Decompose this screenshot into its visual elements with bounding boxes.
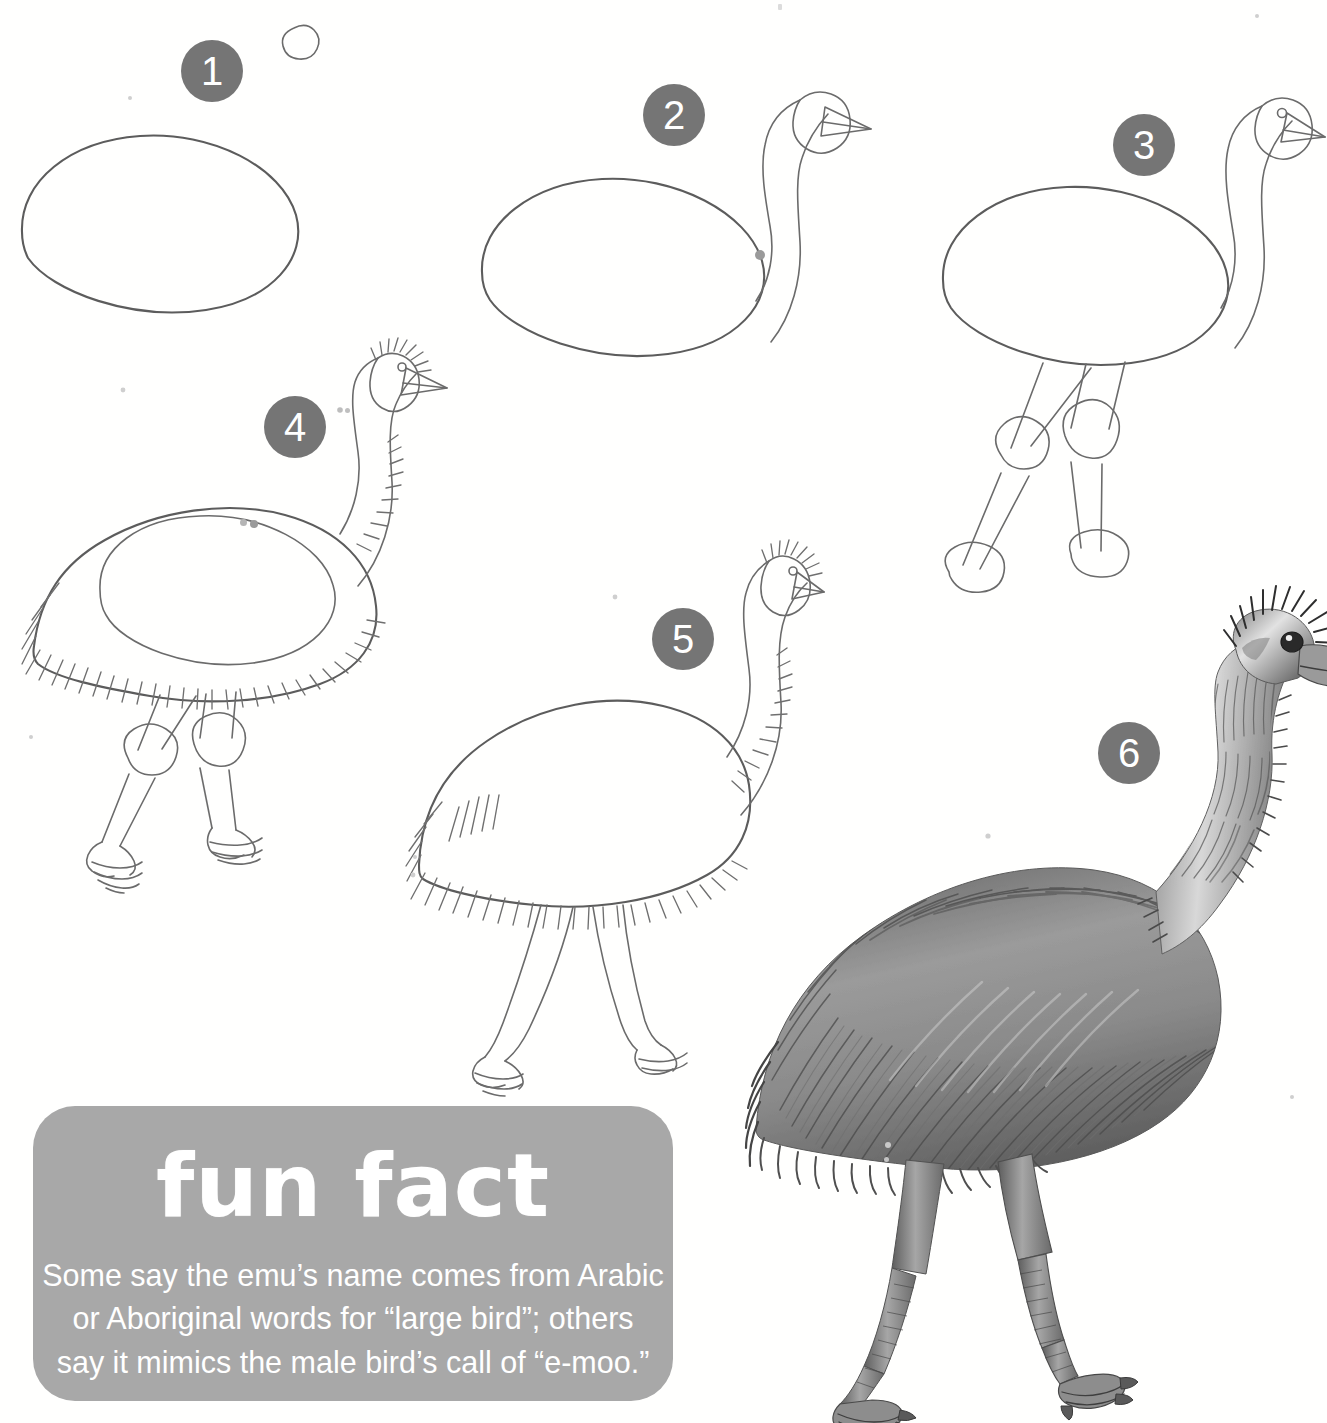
head-outline (370, 353, 419, 411)
front-foot-oval (1070, 530, 1129, 577)
paper-speck (128, 96, 132, 100)
back-foot-oval (945, 542, 1004, 592)
fun-fact-box: fun fact Some say the emu’s name comes f… (33, 1106, 673, 1401)
back-leg-front-line (485, 905, 541, 1057)
fun-fact-text: Some say the emu’s name comes from Arabi… (20, 1254, 686, 1384)
back-leg-thigh-front (138, 695, 160, 750)
back-leg-shank (864, 1268, 916, 1374)
eye-highlight (1286, 635, 1292, 641)
front-leg-tarsus (1042, 1340, 1078, 1384)
tail-feather-hatching (406, 802, 442, 881)
drawing-tutorial-page: 1 2 3 4 5 6 fun fact Some say the emu’s … (0, 0, 1327, 1423)
back-leg-knee-oval (996, 417, 1049, 469)
body-guide-dot (250, 520, 258, 528)
paper-speck (613, 595, 618, 600)
flank-feather-hatching (449, 795, 499, 841)
back-leg-shin-front (102, 774, 129, 842)
paper-speck (411, 873, 416, 878)
belly-feather-hatching (411, 861, 747, 929)
step-badge-4-number: 4 (284, 407, 306, 447)
step-6-illustration (720, 640, 1320, 1423)
neck-front-line (340, 358, 378, 534)
body-oval-guide (22, 136, 298, 313)
fun-fact-line-3: say it mimics the male bird’s call of “e… (42, 1341, 664, 1384)
paper-speck (345, 408, 350, 413)
step-badge-6-number: 6 (1118, 733, 1140, 773)
paper-speck (985, 833, 990, 838)
fun-fact-line-2: or Aboriginal words for “large bird”; ot… (42, 1297, 664, 1340)
paper-speck (885, 1142, 891, 1148)
neck-back-line (1235, 121, 1292, 348)
beak-outline (1281, 113, 1325, 142)
front-leg-shank (1018, 1254, 1064, 1348)
front-leg-shin-back (229, 770, 236, 830)
body-oval-guide (943, 187, 1228, 365)
step-4-illustration (10, 350, 450, 880)
fun-fact-line-1: Some say the emu’s name comes from Arabi… (42, 1254, 664, 1297)
eye-outline (789, 567, 797, 575)
tail-feather-hatching (22, 583, 59, 664)
emu-beak (1298, 645, 1327, 687)
back-leg-thigh (892, 1160, 944, 1274)
back-leg-shin-back (120, 778, 155, 846)
beak-outline (401, 368, 447, 395)
neck-guide-dot (755, 250, 765, 260)
step-badge-5: 5 (652, 608, 714, 670)
step-badge-6: 6 (1098, 722, 1160, 784)
front-leg-shin-back (1101, 464, 1102, 551)
step-badge-3: 3 (1113, 114, 1175, 176)
paper-speck (121, 388, 126, 393)
front-leg-back-line (623, 905, 661, 1045)
head-outline (761, 556, 810, 616)
back-leg-knee-oval (124, 724, 177, 775)
step-1-illustration (0, 0, 360, 350)
body-oval-guide (482, 179, 764, 356)
step-badge-2-number: 2 (663, 95, 685, 135)
step-badge-5-number: 5 (672, 619, 694, 659)
step-badge-1: 1 (181, 40, 243, 102)
back-leg-thigh-front (1011, 363, 1043, 448)
back-leg-shin-back (980, 476, 1029, 569)
body-oval-guide (100, 516, 335, 665)
back-foot-toes (475, 1073, 523, 1096)
paper-speck (778, 4, 782, 10)
back-leg-shin-front (963, 473, 1001, 565)
paper-speck (413, 855, 417, 859)
paper-speck (337, 407, 343, 413)
back-leg-back-line (505, 907, 573, 1061)
neck-feather-strokes (357, 435, 403, 551)
neck-back-line (771, 114, 828, 342)
paper-speck (29, 735, 33, 739)
beak-outline (821, 107, 871, 136)
head-guide-circle-icon (282, 25, 318, 59)
fun-fact-title: fun fact (156, 1142, 550, 1230)
front-leg-thigh-back (1109, 362, 1125, 429)
front-foot-toes (639, 1053, 687, 1071)
front-leg-front-line (593, 907, 637, 1050)
paper-speck (240, 519, 247, 526)
back-foot-toes (92, 862, 142, 893)
front-leg-thigh-back (232, 692, 236, 738)
eye-guide-circle (1278, 109, 1287, 118)
front-leg-shin-front (200, 768, 212, 828)
eye-outline (398, 363, 406, 371)
eye (1281, 632, 1303, 652)
paper-speck (1290, 1095, 1294, 1099)
feathered-body-outline (33, 508, 376, 701)
step-badge-3-number: 3 (1133, 125, 1155, 165)
step-badge-2: 2 (643, 84, 705, 146)
step-badge-4: 4 (264, 396, 326, 458)
paper-speck (1255, 14, 1259, 18)
paper-speck (884, 1157, 889, 1162)
front-leg-thigh-front (1071, 364, 1086, 428)
step-badge-1-number: 1 (201, 51, 223, 91)
front-leg-knee-oval (193, 713, 246, 766)
emu-neck (1156, 642, 1292, 954)
front-leg-knee-oval (1063, 400, 1119, 459)
